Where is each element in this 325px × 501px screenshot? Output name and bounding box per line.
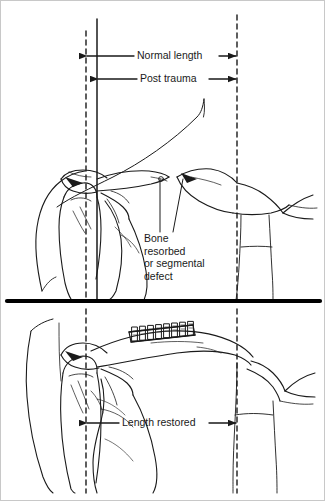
rib-edge-top	[269, 215, 273, 300]
chest-detail-bottom	[280, 401, 313, 404]
acromion-under-top	[61, 179, 97, 193]
scapula-right-bottom	[133, 395, 157, 493]
screw-2	[140, 326, 145, 340]
torso-contour-top	[36, 171, 85, 291]
rib-line-bottom	[285, 391, 315, 397]
label-defect-line-2: resorbed	[144, 245, 216, 258]
humerus-head-top	[64, 183, 97, 197]
humerus-neck-line-top	[71, 198, 91, 201]
label-defect: Bone resorbed or segmental defect	[144, 232, 216, 282]
chest-upper-bottom	[251, 361, 285, 391]
humerus-detail-1	[73, 211, 85, 233]
coracoid-bottom	[101, 369, 133, 395]
scapula-inner-top	[121, 235, 139, 253]
coracoid-detail	[111, 191, 129, 203]
clavicle-restored-detail	[151, 342, 203, 344]
scapula-inner-top-2	[115, 227, 131, 247]
figure-canvas: Normal length Post trauma Bone resorbed …	[0, 0, 325, 501]
label-length-restored: Length restored	[122, 416, 196, 429]
rib-line-top	[283, 213, 313, 219]
humerus-detail-2	[80, 207, 91, 229]
coracoid-top	[101, 193, 129, 219]
label-defect-line-1: Bone	[144, 232, 216, 245]
scapula-left-bottom	[93, 379, 104, 493]
torso-inner-bottom	[59, 323, 61, 381]
scapula-ridge-bottom	[105, 377, 117, 405]
scapula-body-left-top	[105, 201, 122, 300]
ac-joint-shading-top	[65, 177, 83, 187]
label-normal-length: Normal length	[137, 49, 202, 62]
label-post-trauma: Post trauma	[140, 72, 197, 85]
coracoid-detail-bottom	[109, 367, 133, 379]
screw-8	[188, 321, 193, 335]
screw-1	[132, 327, 137, 341]
torso-contour-bottom	[26, 331, 53, 493]
label-defect-line-3: or segmental	[144, 257, 216, 270]
sternum-mid-bottom	[247, 369, 280, 401]
humerus-head-bottom	[63, 356, 97, 373]
rib-edge-bottom	[273, 401, 277, 493]
chest-upper-top	[237, 183, 283, 213]
humerus-shaft-bottom-left	[61, 373, 75, 493]
chest-ridge-top	[283, 195, 313, 213]
humerus-shaft-top-left	[59, 197, 71, 299]
torso-contour-top-lower	[42, 277, 56, 291]
rib-cross-top	[241, 246, 272, 247]
clavicle-restored-bottom-edge	[97, 351, 251, 367]
torso-top-bottom	[31, 319, 53, 331]
leader-curve-top	[57, 99, 204, 207]
clavicle-medial-line-top	[191, 177, 221, 185]
humerus-neck-bottom	[69, 374, 93, 377]
clavicle-medial-under-top	[177, 177, 233, 213]
scapula-inner-b3	[105, 439, 133, 461]
label-defect-line-4: defect	[144, 270, 216, 283]
humerus-detail-b2	[78, 381, 89, 409]
rib-cross-bottom	[235, 414, 273, 416]
clavicle-lateral-top	[97, 171, 169, 179]
chest-ridge-bottom	[285, 373, 315, 391]
defect-leader-2	[173, 179, 183, 232]
sternum-lower-top	[233, 205, 289, 215]
